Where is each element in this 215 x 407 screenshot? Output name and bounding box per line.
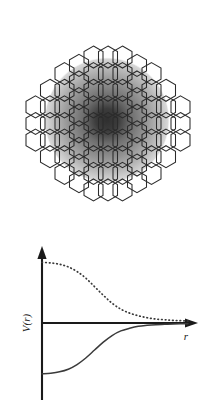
potential-plot-svg: V(r) r [0,240,215,407]
attractive-potential-curve [42,324,188,374]
x-axis-label: r [184,330,189,342]
hex-cell [171,129,190,151]
radial-shading-blob [44,57,170,183]
hex-cell [26,129,45,151]
hex-cell [84,179,103,201]
lattice-svg [0,0,215,240]
potential-plot-panel: V(r) r [0,240,215,407]
hex-cell [113,179,132,201]
hex-cell [171,96,190,118]
lattice-panel [0,0,215,240]
hex-cell [157,146,176,168]
hex-cell [26,113,45,135]
figure-root: V(r) r [0,0,215,407]
y-axis-label: V(r) [20,314,33,333]
hex-cell [171,113,190,135]
repulsive-potential-curve [42,262,188,321]
hex-cell [26,96,45,118]
y-axis-arrowhead [37,246,46,259]
hex-cell [142,162,161,184]
